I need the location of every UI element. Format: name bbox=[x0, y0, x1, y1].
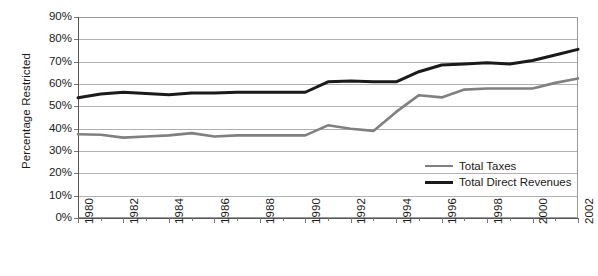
legend-label: Total Direct Revenues bbox=[459, 176, 572, 188]
x-tick-label: 1982 bbox=[128, 198, 140, 224]
legend-item: Total Taxes bbox=[425, 158, 572, 174]
x-tick-label: 2000 bbox=[537, 198, 549, 224]
chart-legend: Total TaxesTotal Direct Revenues bbox=[425, 158, 572, 190]
x-tick-label: 1994 bbox=[401, 198, 413, 224]
x-tick-label: 1980 bbox=[83, 198, 95, 224]
legend-swatch bbox=[425, 165, 453, 167]
legend-swatch bbox=[425, 181, 453, 184]
x-tick-label: 1992 bbox=[355, 198, 367, 224]
x-tick-label: 2002 bbox=[583, 198, 595, 224]
x-tick-label: 1988 bbox=[264, 198, 276, 224]
x-axis-tick-labels: 1980198219841986198819901992199419961998… bbox=[0, 0, 598, 276]
legend-label: Total Taxes bbox=[459, 160, 516, 172]
legend-item: Total Direct Revenues bbox=[425, 174, 572, 190]
x-tick-label: 1998 bbox=[492, 198, 504, 224]
x-tick-label: 1984 bbox=[173, 198, 185, 224]
x-tick-label: 1986 bbox=[219, 198, 231, 224]
x-tick-label: 1990 bbox=[310, 198, 322, 224]
chart-container: Percentage Restricted 90%80%70%60%50%40%… bbox=[0, 0, 598, 276]
x-tick-label: 1996 bbox=[446, 198, 458, 224]
